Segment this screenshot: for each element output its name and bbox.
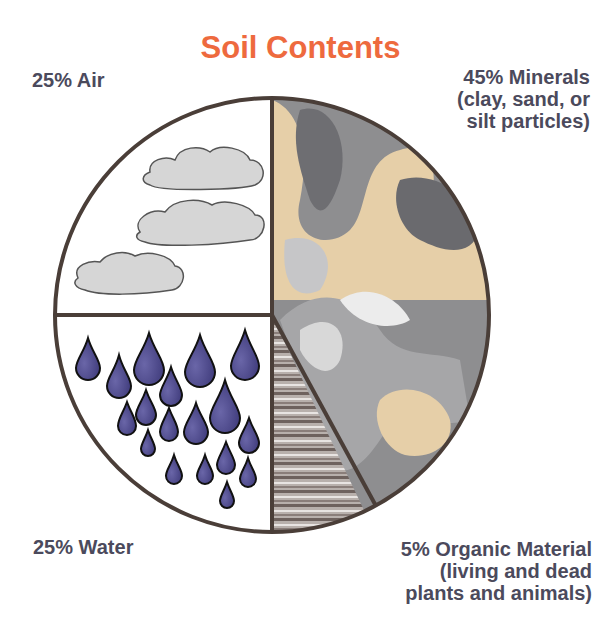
slice-water bbox=[50, 315, 272, 545]
slice-air bbox=[50, 90, 272, 315]
pie-chart bbox=[0, 0, 601, 640]
